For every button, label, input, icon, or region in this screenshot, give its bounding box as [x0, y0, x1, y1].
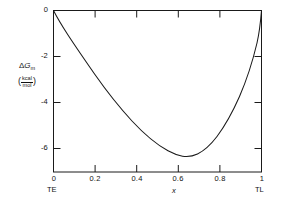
x-tick-label-0: 0: [49, 174, 59, 183]
units-fraction: kcalmol: [21, 76, 33, 88]
axis-frame: [54, 11, 262, 173]
x-tick-label-0p4: 0.4: [127, 174, 147, 183]
y-tick-label-minus4: -4: [28, 97, 48, 106]
x-axis-title: x: [172, 186, 176, 195]
x-tick-marks: [95, 165, 220, 172]
y-axis-title-symbol: ΔGm: [4, 62, 50, 71]
y-axis-units: (kcalmol): [4, 76, 50, 88]
y-tick-label-minus6: -6: [28, 143, 48, 152]
units-close-paren: ): [33, 77, 36, 87]
units-denominator: mol: [21, 82, 33, 89]
y-axis-title: ΔGm (kcalmol): [4, 62, 50, 89]
x-tick-marks-top: [95, 11, 220, 18]
data-curve: [54, 11, 262, 157]
x-tick-label-0p8: 0.8: [210, 174, 230, 183]
y-tick-marks-right: [255, 57, 262, 149]
y-tick-label-0: 0: [28, 5, 48, 14]
chart-figure: 0 -2 -4 -6 ΔGm (kcalmol) 0 0.2 0.4 0.6 0…: [0, 0, 290, 201]
x-tick-label-0p6: 0.6: [168, 174, 188, 183]
y-tick-label-minus2: -2: [28, 51, 48, 60]
g-subscript: m: [30, 65, 35, 71]
x-endpoint-label-tl: TL: [255, 185, 264, 194]
y-tick-marks: [54, 11, 61, 149]
x-tick-label-1: 1: [257, 174, 267, 183]
x-endpoint-label-te: TE: [47, 185, 57, 194]
x-tick-label-0p2: 0.2: [85, 174, 105, 183]
